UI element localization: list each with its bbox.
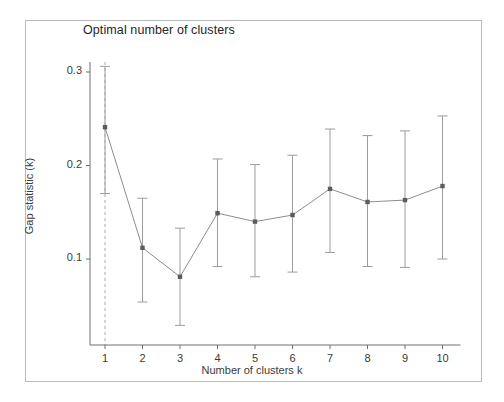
x-axis-title: Number of clusters k (0, 364, 504, 376)
y-axis-title: Gap statistic (k) (23, 111, 35, 281)
x-tick-label-1: 1 (90, 352, 120, 364)
data-point-k1[interactable] (103, 125, 107, 129)
x-tick-label-10: 10 (428, 352, 458, 364)
x-tick-label-9: 9 (390, 352, 420, 364)
data-point-k3[interactable] (178, 275, 182, 279)
y-tick-label-0.3: 0.3 (48, 64, 82, 76)
gap-line-layer (105, 127, 443, 277)
x-tick-label-7: 7 (315, 352, 345, 364)
errorbars-layer (100, 66, 448, 325)
data-point-k5[interactable] (253, 219, 257, 223)
x-tick-label-3: 3 (165, 352, 195, 364)
data-point-k9[interactable] (403, 198, 407, 202)
data-point-k10[interactable] (440, 184, 444, 188)
gap-statistic-line (105, 127, 443, 277)
data-point-k2[interactable] (140, 246, 144, 250)
data-point-k8[interactable] (365, 200, 369, 204)
data-point-k6[interactable] (290, 213, 294, 217)
x-tick-label-8: 8 (353, 352, 383, 364)
data-point-k7[interactable] (328, 187, 332, 191)
gap-points-layer (103, 125, 445, 279)
y-tick-label-0.1: 0.1 (48, 251, 82, 263)
y-tick-label-0.2: 0.2 (48, 158, 82, 170)
data-point-k4[interactable] (215, 211, 219, 215)
gap-statistic-plot (0, 0, 504, 402)
x-tick-label-5: 5 (240, 352, 270, 364)
x-tick-label-2: 2 (128, 352, 158, 364)
x-tick-label-4: 4 (203, 352, 233, 364)
x-tick-label-6: 6 (278, 352, 308, 364)
